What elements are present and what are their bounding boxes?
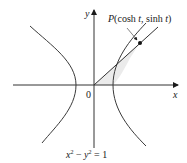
y-axis-label: y xyxy=(84,8,90,19)
ray-origin-to-p xyxy=(94,27,158,85)
point-label: P(cosh t, sinh t) xyxy=(107,13,171,25)
point-label-open: (cosh xyxy=(114,13,138,25)
origin-label: 0 xyxy=(86,89,91,100)
point-p xyxy=(138,41,142,45)
x-axis-label: x xyxy=(172,89,178,100)
eq-rest: = 1 xyxy=(92,149,108,160)
point-label-p: P xyxy=(107,13,114,24)
equation-label: x2 − y2 = 1 xyxy=(65,149,107,160)
hyperbola-diagram: y x 0 P(cosh t, sinh t) x2 − y2 = 1 xyxy=(0,0,187,163)
eq-minus: − xyxy=(73,149,84,160)
point-label-mid: , sinh xyxy=(141,13,165,24)
point-label-close: ) xyxy=(168,13,171,25)
